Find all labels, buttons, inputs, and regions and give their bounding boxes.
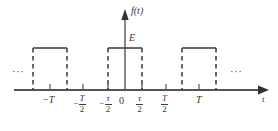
y-axis-arrowhead xyxy=(121,9,128,20)
tick-label-neg-tau-over-2: − τ 2 xyxy=(99,94,112,114)
tick-label-pos-tau-over-2: τ 2 xyxy=(136,94,143,114)
tick-label-pos-T-over-2-fraction: T 2 xyxy=(161,94,168,114)
tick-label-neg-tau-over-2-denominator: 2 xyxy=(106,105,111,114)
tick-label-neg-T-over-2-sign: − xyxy=(73,99,78,109)
tick-label-neg-tau-over-2-numerator: τ xyxy=(105,94,110,103)
tick-label-pos-T-over-2-numerator: T xyxy=(161,94,168,103)
tick-label-neg-T-over-2: − T 2 xyxy=(73,94,86,114)
tick-label-neg-T-over-2-numerator: T xyxy=(79,94,86,103)
tick-label-pos-T-over-2: T 2 xyxy=(161,94,168,114)
tick-label-zero: 0 xyxy=(119,96,124,106)
tick-label-neg-T: −T xyxy=(42,95,54,105)
y-axis-label: f(t) xyxy=(131,6,143,16)
pulse-right xyxy=(182,48,216,90)
tick-label-neg-tau-over-2-sign: − xyxy=(99,99,104,109)
amplitude-label: E xyxy=(129,33,135,43)
tick-label-pos-tau-over-2-denominator: 2 xyxy=(137,105,142,114)
tick-label-neg-T-over-2-fraction: T 2 xyxy=(79,94,86,114)
x-axis-label: t xyxy=(262,95,265,104)
tick-label-neg-T-over-2-denominator: 2 xyxy=(80,105,85,114)
tick-label-neg-tau-over-2-fraction: τ 2 xyxy=(105,94,112,114)
tick-label-pos-T-over-2-denominator: 2 xyxy=(162,105,167,114)
tick-label-pos-T: T xyxy=(196,95,202,105)
right-ellipsis: ··· xyxy=(230,66,243,77)
pulse-train-figure: f(t) E t −T − T 2 − τ 2 0 τ 2 T xyxy=(0,0,278,131)
pulse-left xyxy=(33,48,67,90)
tick-label-pos-tau-over-2-fraction: τ 2 xyxy=(136,94,143,114)
left-ellipsis: ··· xyxy=(12,66,25,77)
tick-label-pos-tau-over-2-numerator: τ xyxy=(137,94,142,103)
